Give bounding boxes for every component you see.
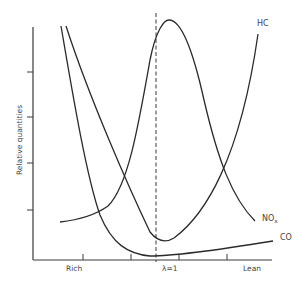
y-axis-label: Relative quantities — [15, 105, 24, 175]
nox-label: NOx — [262, 214, 278, 224]
nox-curve — [60, 20, 255, 222]
x-ticks — [83, 254, 227, 260]
x-label-lambda: λ=1 — [162, 264, 178, 273]
hc-curve — [66, 26, 258, 241]
co-label: CO — [280, 233, 292, 242]
y-ticks — [27, 72, 33, 210]
x-label-lean: Lean — [243, 264, 261, 273]
co-curve — [61, 26, 273, 256]
hc-label: HC — [257, 19, 269, 28]
emissions-chart: HC NOx CO Rich λ=1 Lean Relative quantit… — [0, 0, 304, 284]
x-label-rich: Rich — [66, 264, 82, 273]
